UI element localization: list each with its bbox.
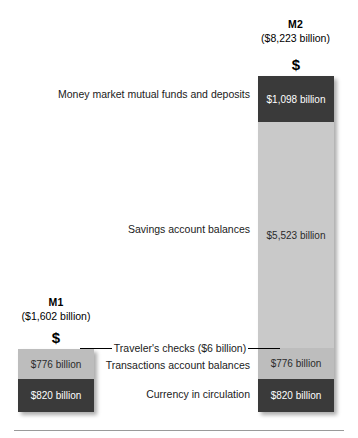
m1-aggregate-total: ($1,602 billion)	[8, 310, 104, 323]
m1-aggregate-name: M1	[8, 296, 104, 309]
m2-segment-currency-value: $820 billion	[271, 390, 322, 401]
m2-segment-money-market-funds-value: $1,098 billion	[267, 94, 326, 105]
m2-segment-savings-value: $5,523 billion	[267, 230, 326, 241]
m2-column-header: M2 ($8,223 billion)	[233, 18, 358, 45]
m2-stacked-bar: $1,098 billion $5,523 billion $776 billi…	[258, 76, 334, 412]
figure-canvas: M2 ($8,223 billion) $ $1,098 billion $5,…	[0, 0, 358, 438]
m2-aggregate-name: M2	[233, 18, 358, 31]
figure-bottom-divider	[14, 430, 344, 431]
travelers-checks-label: Traveler's checks ($6 billion)	[112, 343, 248, 354]
m2-segment-savings: $5,523 billion	[258, 122, 334, 348]
category-label-savings: Savings account balances	[10, 223, 250, 236]
m2-dollar-sign-icon: $	[258, 57, 334, 72]
m2-segment-money-market-funds: $1,098 billion	[258, 76, 334, 122]
callout-leader-line-left	[80, 348, 112, 349]
callout-leader-line-right	[248, 348, 280, 349]
category-label-transactions: Transactions account balances	[10, 359, 250, 372]
category-label-money-market-funds: Money market mutual funds and deposits	[10, 88, 250, 101]
m2-aggregate-total: ($8,223 billion)	[233, 32, 358, 45]
m2-segment-currency: $820 billion	[258, 379, 334, 412]
travelers-checks-callout: Traveler's checks ($6 billion)	[80, 341, 280, 355]
category-label-currency: Currency in circulation	[10, 388, 250, 401]
m1-column-header: M1 ($1,602 billion)	[8, 296, 104, 323]
m2-segment-transactions-value: $776 billion	[271, 358, 322, 369]
